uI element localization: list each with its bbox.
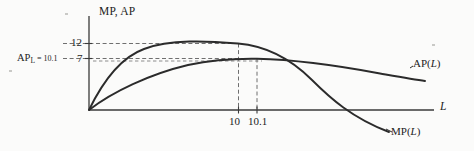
curve-label-mp: MP(L) — [391, 126, 420, 137]
curve-label-mp-suffix: ) — [417, 125, 421, 137]
y-tick-label-7: 7 — [77, 53, 83, 64]
curve-label-ap-suffix: ) — [437, 57, 441, 69]
ap-level-annotation: APL = 10.1 — [17, 53, 58, 65]
figure-mp-ap-chart: MP, AP L 12 7 APL = 10.1 10 10.1 AP(L) M… — [0, 0, 474, 151]
y-tick-label-12: 12 — [71, 37, 82, 48]
x-axis-label: L — [440, 101, 446, 113]
ap-annotation-prefix: AP — [17, 52, 30, 63]
ap-annotation-value: 10.1 — [44, 54, 58, 63]
ap-annotation-equals: = — [35, 54, 44, 63]
x-tick-label-10-1: 10.1 — [248, 116, 267, 127]
curve-label-ap-prefix: AP( — [413, 57, 431, 69]
curve-label-mp-prefix: MP( — [391, 125, 411, 137]
y-axis-label: MP, AP — [99, 6, 135, 18]
curve-label-ap: AP(L) — [413, 58, 441, 69]
x-tick-label-10: 10 — [229, 116, 240, 127]
